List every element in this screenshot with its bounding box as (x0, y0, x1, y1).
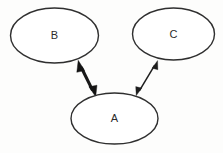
node-c-label: C (169, 28, 177, 40)
node-link-diagram: B C A (0, 0, 223, 153)
diagram-canvas: B C A (0, 0, 223, 153)
edge-b-a-arrowhead-up (77, 60, 85, 72)
node-b-label: B (51, 29, 59, 41)
node-c[interactable]: C (133, 8, 215, 60)
edge-c-a-arrowhead-down (136, 87, 142, 96)
edge-b-a[interactable] (77, 60, 97, 97)
node-b[interactable]: B (11, 8, 99, 63)
node-a[interactable]: A (71, 93, 158, 144)
node-a-label: A (111, 112, 119, 124)
edge-c-a-shaft (139, 65, 154, 91)
edge-c-a-arrowhead-up (152, 61, 158, 70)
edge-c-a[interactable] (136, 61, 158, 96)
